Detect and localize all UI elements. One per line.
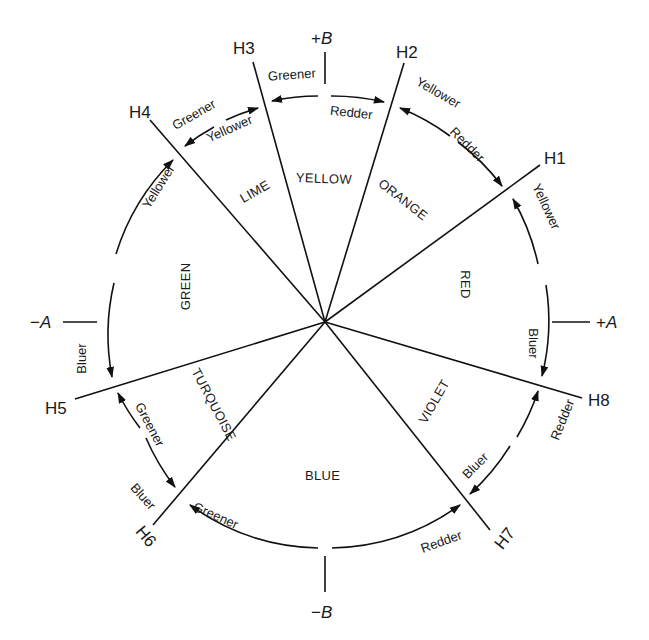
arc-bluer-h8 (542, 285, 549, 376)
boundary-label-h8: H8 (588, 392, 610, 409)
axis-label-plus-b: +B (311, 30, 332, 47)
boundary-label-h2: H2 (396, 44, 418, 61)
axis-label-minus-a: −A (30, 314, 51, 331)
arc-yellower-h2 (400, 108, 450, 136)
hue-label-red: RED (459, 270, 472, 298)
diagram-lines (0, 0, 649, 640)
boundary-label-h3: H3 (233, 40, 255, 57)
axis-label-plus-a: +A (596, 314, 617, 331)
boundary-label-h5: H5 (45, 400, 67, 417)
arrow-label-bluer-h8: Bluer (527, 328, 540, 358)
hue-label-green: GREEN (179, 263, 192, 311)
arrow-label-greener-top: Greener (268, 66, 316, 82)
boundary-line-h4 (150, 120, 325, 322)
boundary-line-h8 (325, 322, 582, 398)
arrow-label-bluer-h5: Bluer (75, 343, 88, 373)
arc-redder-h8 (517, 391, 538, 437)
axis-label-minus-b: −B (311, 604, 332, 621)
arc-redder-top (331, 96, 384, 102)
hue-circle-diagram: +B −B +A −A H3 H2 H1 H4 H5 H6 H7 H8 YELL… (0, 0, 649, 640)
boundary-label-h4: H4 (129, 104, 151, 121)
hue-label-blue: BLUE (305, 469, 340, 482)
arc-greener-top (272, 96, 318, 101)
boundary-line-h1 (325, 165, 540, 322)
arc-yellower-h1 (513, 199, 538, 264)
boundary-label-h1: H1 (544, 150, 566, 167)
arc-bluer-h5 (108, 283, 114, 377)
hue-label-yellow: YELLOW (296, 171, 352, 186)
boundary-line-h7 (325, 322, 490, 530)
boundary-line-h6 (153, 322, 325, 525)
